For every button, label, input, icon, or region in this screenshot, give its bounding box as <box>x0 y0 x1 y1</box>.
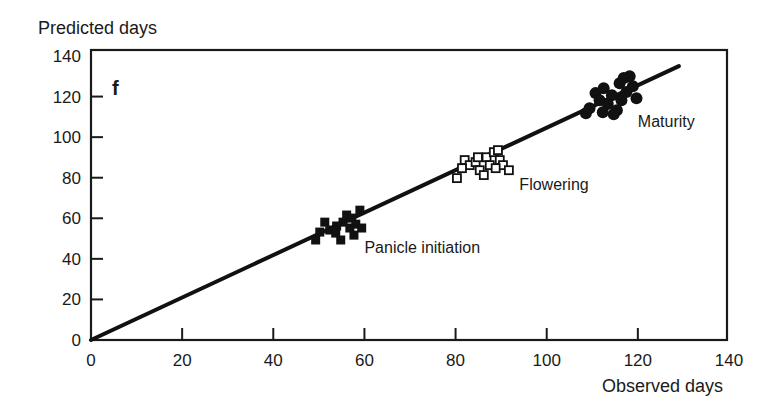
y-axis-title: Predicted days <box>38 18 157 38</box>
data-point-filled-square <box>315 228 324 237</box>
data-point-filled-square <box>355 206 364 215</box>
series-maturity <box>580 70 643 120</box>
y-tick-label: 80 <box>62 169 81 188</box>
data-point-filled-square <box>347 214 356 223</box>
x-tick-label: 60 <box>355 351 374 370</box>
data-point-filled-circle <box>618 72 630 84</box>
data-point-filled-square <box>336 235 345 244</box>
y-tick-label: 140 <box>53 47 81 66</box>
data-point-filled-circle <box>597 106 609 118</box>
y-tick-label: 20 <box>62 290 81 309</box>
series-label-panicle-initiation: Panicle initiation <box>364 239 480 256</box>
x-tick-label: 100 <box>533 351 561 370</box>
data-point-filled-square <box>349 231 358 240</box>
data-point-filled-circle <box>627 80 639 92</box>
data-point-open-square <box>492 164 500 172</box>
y-tick-label: 100 <box>53 128 81 147</box>
data-point-filled-square <box>320 218 329 227</box>
y-tick-label: 40 <box>62 250 81 269</box>
y-tick-label: 120 <box>53 88 81 107</box>
x-tick-label: 140 <box>715 351 743 370</box>
y-tick-label: 0 <box>72 331 81 350</box>
x-tick-label: 20 <box>173 351 192 370</box>
data-point-open-square <box>494 146 502 154</box>
series-panicle-initiation <box>311 206 366 245</box>
data-points <box>311 70 642 244</box>
data-point-filled-square <box>332 221 341 230</box>
data-point-open-square <box>453 174 461 182</box>
x-tick-label: 40 <box>264 351 283 370</box>
x-tick-label: 0 <box>86 351 95 370</box>
panel-label: f <box>112 77 119 99</box>
series-flowering <box>453 146 513 182</box>
data-point-filled-circle <box>608 108 620 120</box>
y-tick-label: 60 <box>62 209 81 228</box>
data-point-open-square <box>458 164 466 172</box>
data-point-open-square <box>474 153 482 161</box>
data-point-filled-circle <box>584 102 596 114</box>
scatter-chart: 020406080100120140020406080100120140 Pre… <box>0 0 776 418</box>
x-tick-label: 120 <box>624 351 652 370</box>
data-point-open-square <box>480 171 488 179</box>
data-point-filled-square <box>357 224 366 233</box>
series-label-flowering: Flowering <box>519 176 588 193</box>
x-axis-title: Observed days <box>602 376 723 396</box>
data-point-filled-circle <box>630 92 642 104</box>
data-point-filled-square <box>311 235 320 244</box>
data-point-open-square <box>505 166 513 174</box>
x-tick-label: 80 <box>446 351 465 370</box>
series-label-maturity: Maturity <box>638 113 695 130</box>
